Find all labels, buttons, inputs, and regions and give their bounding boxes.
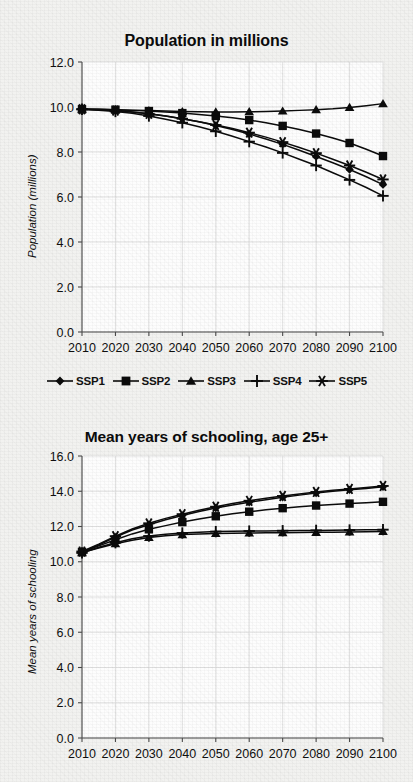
x-axis-tick-label: 2100 (369, 747, 397, 761)
legend-item-ssp3[interactable]: SSP3 (177, 373, 236, 389)
y-axis-tick-label: 4.0 (57, 661, 74, 675)
legend-item-ssp2[interactable]: SSP2 (112, 373, 171, 389)
x-axis-tick-label: 2060 (235, 341, 263, 355)
figure-population: Population in millions Population (milli… (0, 0, 413, 404)
legend-item-ssp5[interactable]: SSP5 (308, 373, 367, 389)
x-axis-tick-label: 2040 (168, 747, 196, 761)
x-axis-tick-label: 2100 (369, 341, 397, 355)
x-axis-tick-label: 2050 (202, 341, 230, 355)
legend-item-ssp4[interactable]: SSP4 (243, 373, 302, 389)
y-axis-tick-label: 0.0 (57, 732, 74, 746)
y-axis-tick-label: 10.0 (50, 555, 74, 569)
y-axis-tick-label: 2.0 (57, 281, 74, 295)
chart-legend: SSP1SSP2SSP3SSP4SSP5 (0, 373, 413, 389)
x-axis-tick-label: 2050 (202, 747, 230, 761)
legend-label: SSP3 (207, 375, 236, 387)
y-axis-tick-label: 10.0 (50, 101, 74, 115)
x-axis-tick-label: 2080 (302, 341, 330, 355)
y-axis-tick-label: 12.0 (50, 56, 74, 70)
x-axis-tick-label: 2070 (269, 747, 297, 761)
x-axis-tick-label: 2020 (102, 341, 130, 355)
y-axis-tick-label: 14.0 (50, 485, 74, 499)
x-axis-tick-label: 2020 (102, 747, 130, 761)
y-axis-tick-label: 6.0 (57, 191, 74, 205)
legend-item-ssp1[interactable]: SSP1 (46, 373, 105, 389)
legend-marker-square-marker (112, 373, 140, 389)
legend-label: SSP1 (76, 375, 105, 387)
legend-marker-triangle-marker (177, 373, 205, 389)
legend-label: SSP5 (338, 375, 367, 387)
y-axis-tick-label: 8.0 (57, 591, 74, 605)
y-axis-tick-label: 2.0 (57, 696, 74, 710)
legend-marker-asterisk-marker (308, 373, 336, 389)
y-axis-tick-label: 4.0 (57, 236, 74, 250)
y-axis-tick-label: 6.0 (57, 626, 74, 640)
x-axis-tick-label: 2040 (168, 341, 196, 355)
y-axis-tick-label: 12.0 (50, 520, 74, 534)
x-axis-tick-label: 2090 (336, 341, 364, 355)
legend-label: SSP4 (273, 375, 302, 387)
y-axis-tick-label: 0.0 (57, 326, 74, 340)
x-axis-tick-label: 2060 (235, 747, 263, 761)
plot-area-schooling: 0.02.04.06.08.010.012.014.016.0201020202… (0, 404, 413, 782)
x-axis-tick-label: 2010 (68, 747, 96, 761)
legend-marker-diamond-marker (46, 373, 74, 389)
legend-label: SSP2 (142, 375, 171, 387)
plot-area-population: 0.02.04.06.08.010.012.020102020203020402… (0, 0, 413, 404)
figure-schooling: Mean years of schooling, age 25+ Mean ye… (0, 404, 413, 782)
y-axis-tick-label: 8.0 (57, 146, 74, 160)
x-axis-tick-label: 2010 (68, 341, 96, 355)
x-axis-tick-label: 2070 (269, 341, 297, 355)
y-axis-tick-label: 16.0 (50, 450, 74, 464)
x-axis-tick-label: 2080 (302, 747, 330, 761)
x-axis-tick-label: 2030 (135, 341, 163, 355)
x-axis-tick-label: 2030 (135, 747, 163, 761)
x-axis-tick-label: 2090 (336, 747, 364, 761)
legend-marker-plus-marker (243, 373, 271, 389)
